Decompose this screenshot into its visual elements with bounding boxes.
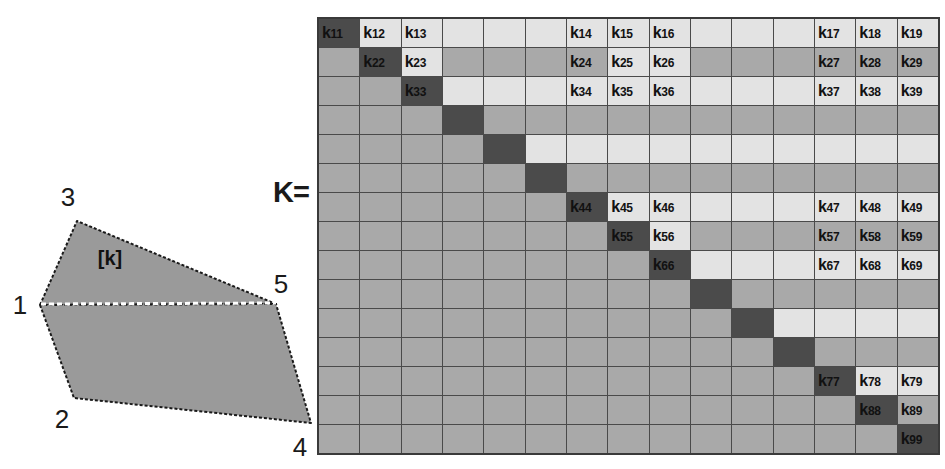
matrix-cell-r10-c8 [608, 280, 648, 308]
matrix-cell-r5-c11 [732, 135, 772, 163]
matrix-cell-r4-c4 [443, 106, 483, 134]
matrix-cell-r13-c15: k79 [898, 367, 938, 395]
matrix-cell-r1-c9: k16 [650, 19, 690, 47]
matrix-cell-r8-c8: k55 [608, 222, 648, 250]
matrix-cell-r12-c9 [650, 338, 690, 366]
element-patch-diagram: [k] 3 1 2 4 5 [0, 0, 320, 469]
matrix-cell-label: k47 [815, 199, 839, 215]
matrix-cell-r14-c8 [608, 396, 648, 424]
matrix-cell-r15-c8 [608, 425, 648, 453]
matrix-cell-r11-c5 [484, 309, 524, 337]
matrix-cell-r4-c7 [567, 106, 607, 134]
matrix-cell-r6-c11 [732, 164, 772, 192]
matrix-cell-r15-c15: k99 [898, 425, 938, 453]
matrix-cell-r7-c15: k49 [898, 193, 938, 221]
matrix-cell-r15-c1 [319, 425, 359, 453]
matrix-cell-r8-c7 [567, 222, 607, 250]
matrix-cell-r11-c8 [608, 309, 648, 337]
matrix-cell-r2-c7: k24 [567, 48, 607, 76]
matrix-cell-r1-c5 [484, 19, 524, 47]
matrix-cell-r7-c4 [443, 193, 483, 221]
matrix-equals-label: K= [273, 178, 309, 207]
matrix-cell-r1-c7: k14 [567, 19, 607, 47]
patch-lower-quad [40, 304, 311, 423]
matrix-cell-r13-c7 [567, 367, 607, 395]
matrix-cell-label: k79 [898, 373, 922, 389]
matrix-cell-r10-c3 [402, 280, 442, 308]
matrix-cell-r15-c9 [650, 425, 690, 453]
matrix-cell-r3-c2 [360, 77, 400, 105]
matrix-cell-r6-c15 [898, 164, 938, 192]
matrix-cell-r3-c6 [526, 77, 566, 105]
matrix-cell-label: k39 [898, 83, 922, 99]
matrix-cell-r7-c6 [526, 193, 566, 221]
matrix-cell-r10-c12 [774, 280, 814, 308]
matrix-cell-r1-c4 [443, 19, 483, 47]
matrix-cell-r14-c3 [402, 396, 442, 424]
matrix-cell-r7-c7: k44 [567, 193, 607, 221]
matrix-cell-r15-c4 [443, 425, 483, 453]
matrix-cell-r9-c9: k66 [650, 251, 690, 279]
matrix-cell-r9-c6 [526, 251, 566, 279]
matrix-cell-r12-c4 [443, 338, 483, 366]
matrix-cell-r12-c1 [319, 338, 359, 366]
matrix-cell-r14-c7 [567, 396, 607, 424]
matrix-cell-r14-c6 [526, 396, 566, 424]
matrix-cell-r12-c8 [608, 338, 648, 366]
matrix-cell-r4-c6 [526, 106, 566, 134]
matrix-cell-r10-c2 [360, 280, 400, 308]
matrix-cell-r8-c4 [443, 222, 483, 250]
matrix-cell-label: k37 [815, 83, 839, 99]
matrix-cell-r3-c4 [443, 77, 483, 105]
matrix-cell-r7-c12 [774, 193, 814, 221]
matrix-cell-r6-c1 [319, 164, 359, 192]
matrix-cell-label: k58 [856, 228, 880, 244]
matrix-cell-r13-c3 [402, 367, 442, 395]
matrix-cell-r5-c1 [319, 135, 359, 163]
matrix-cell-label: k57 [815, 228, 839, 244]
matrix-cell-r9-c3 [402, 251, 442, 279]
matrix-cell-r4-c3 [402, 106, 442, 134]
matrix-cell-r13-c13: k77 [815, 367, 855, 395]
matrix-cell-r7-c3 [402, 193, 442, 221]
matrix-cell-r5-c15 [898, 135, 938, 163]
matrix-cell-r4-c11 [732, 106, 772, 134]
matrix-cell-r10-c7 [567, 280, 607, 308]
matrix-cell-label: k14 [567, 25, 591, 41]
vertex-label-5: 5 [274, 269, 288, 299]
matrix-cell-r11-c13 [815, 309, 855, 337]
matrix-cell-label: k56 [650, 228, 674, 244]
matrix-cell-r2-c15: k29 [898, 48, 938, 76]
matrix-cell-r11-c4 [443, 309, 483, 337]
matrix-cell-r9-c15: k69 [898, 251, 938, 279]
matrix-cell-r8-c1 [319, 222, 359, 250]
matrix-cell-r12-c3 [402, 338, 442, 366]
matrix-cell-r4-c5 [484, 106, 524, 134]
matrix-cell-r10-c6 [526, 280, 566, 308]
matrix-cell-r5-c10 [691, 135, 731, 163]
matrix-cell-label: k33 [402, 83, 426, 99]
matrix-cell-label: k78 [856, 373, 880, 389]
matrix-cell-r15-c2 [360, 425, 400, 453]
matrix-cell-r12-c5 [484, 338, 524, 366]
matrix-cell-r1-c3: k13 [402, 19, 442, 47]
matrix-cell-r15-c12 [774, 425, 814, 453]
matrix-cell-r7-c14: k48 [856, 193, 896, 221]
matrix-cell-label: k25 [608, 54, 632, 70]
matrix-cell-r13-c5 [484, 367, 524, 395]
matrix-cell-r3-c3: k33 [402, 77, 442, 105]
matrix-cell-r1-c8: k15 [608, 19, 648, 47]
matrix-cell-r12-c11 [732, 338, 772, 366]
matrix-cell-r6-c5 [484, 164, 524, 192]
matrix-cell-r8-c12 [774, 222, 814, 250]
matrix-cell-r2-c14: k28 [856, 48, 896, 76]
matrix-cell-label: k24 [567, 54, 591, 70]
matrix-cell-label: k34 [567, 83, 591, 99]
matrix-cell-r9-c5 [484, 251, 524, 279]
matrix-cell-r5-c14 [856, 135, 896, 163]
matrix-cell-r9-c10 [691, 251, 731, 279]
matrix-cell-r5-c4 [443, 135, 483, 163]
matrix-cell-label: k13 [402, 25, 426, 41]
matrix-cell-label: k11 [319, 25, 343, 41]
matrix-cell-label: k17 [815, 25, 839, 41]
